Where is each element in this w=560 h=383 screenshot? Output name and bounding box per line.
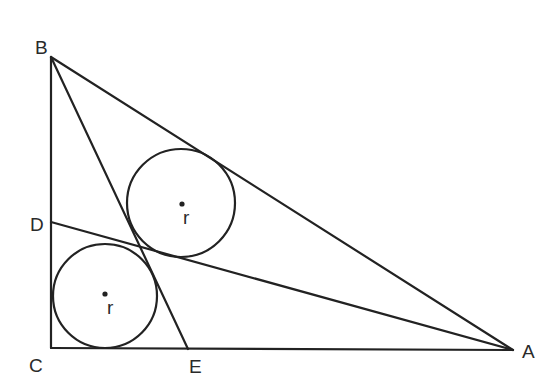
vertex-label-d: D — [30, 214, 44, 235]
upper-radius-label: r — [183, 207, 190, 228]
vertex-label-b: B — [35, 37, 48, 58]
vertex-label-c: C — [29, 355, 43, 376]
lower-circle-center — [102, 291, 107, 296]
vertex-label-a: A — [522, 341, 535, 362]
lower-radius-label: r — [107, 297, 114, 318]
segment-ca — [51, 348, 513, 350]
upper-circle-center — [179, 201, 184, 206]
segment-da — [51, 222, 513, 350]
vertex-label-e: E — [189, 356, 202, 377]
triangle-diagram: r r B D C E A — [0, 0, 560, 383]
